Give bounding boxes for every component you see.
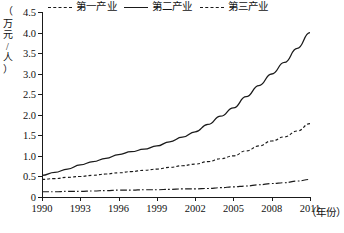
legend-label: 第二产业 bbox=[152, 2, 193, 13]
y-tick-label: 4.0 bbox=[23, 27, 36, 38]
y-axis-title-char: （ bbox=[1, 6, 14, 18]
legend-item-tertiary: 第三产业 bbox=[200, 2, 269, 13]
y-axis-title-char: 万 bbox=[1, 18, 14, 30]
chart-legend: 第一产业 第二产业 第三产业 bbox=[48, 2, 268, 13]
y-axis-title: （ 万 元 / 人 ） bbox=[1, 6, 14, 75]
legend-key-dash-dot-icon bbox=[48, 7, 72, 8]
legend-key-solid-icon bbox=[124, 7, 148, 8]
x-tick-label: 1990 bbox=[32, 203, 53, 214]
x-tick-label: 1996 bbox=[108, 203, 129, 214]
y-axis-title-char: 元 bbox=[1, 29, 14, 41]
series-line-dashed bbox=[42, 124, 310, 180]
plot-area: 00.51.01.52.02.53.03.54.04.5 19901993199… bbox=[42, 12, 310, 197]
y-axis-title-char: ） bbox=[1, 64, 14, 76]
y-tick-label: 3.0 bbox=[23, 68, 36, 79]
x-tick-label: 1993 bbox=[70, 203, 91, 214]
x-tick-label: 1999 bbox=[146, 203, 167, 214]
x-tick-label: 2005 bbox=[223, 203, 244, 214]
y-tick-label: 0 bbox=[31, 192, 36, 203]
chart-figure: （ 万 元 / 人 ） 第一产业 第二产业 第三产业 00.51.01.52.0… bbox=[0, 0, 344, 233]
y-axis-title-char: / bbox=[1, 41, 14, 53]
y-axis-title-char: 人 bbox=[1, 52, 14, 64]
legend-label: 第一产业 bbox=[76, 2, 117, 13]
y-tick-label: 2.0 bbox=[23, 109, 36, 120]
legend-key-dashed-icon bbox=[200, 7, 224, 8]
x-axis-title: （年份） bbox=[306, 204, 344, 219]
x-tick-label: 2008 bbox=[261, 203, 282, 214]
y-tick-label: 0.5 bbox=[23, 171, 36, 182]
data-series-group bbox=[42, 12, 310, 198]
series-line-solid bbox=[42, 33, 310, 176]
series-line-dash-dot bbox=[42, 179, 310, 191]
legend-label: 第三产业 bbox=[228, 2, 269, 13]
x-tick bbox=[310, 197, 311, 201]
y-tick-label: 2.5 bbox=[23, 89, 36, 100]
legend-item-secondary: 第二产业 bbox=[124, 2, 193, 13]
y-tick-label: 3.5 bbox=[23, 48, 36, 59]
y-tick-label: 1.5 bbox=[23, 130, 36, 141]
x-tick-label: 2002 bbox=[185, 203, 206, 214]
legend-item-primary: 第一产业 bbox=[48, 2, 117, 13]
y-tick-label: 1.0 bbox=[23, 150, 36, 161]
y-tick-label: 4.5 bbox=[23, 7, 36, 18]
